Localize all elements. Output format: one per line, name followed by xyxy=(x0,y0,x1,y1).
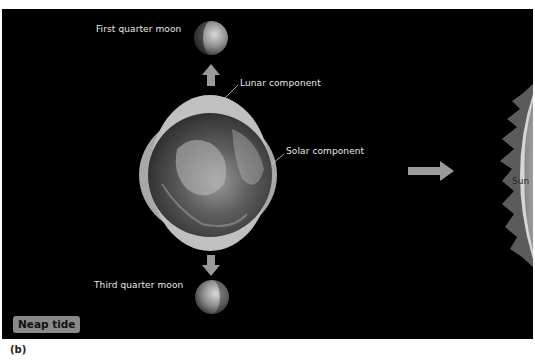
panel-label: (b) xyxy=(10,344,26,355)
arrow-right-icon xyxy=(408,161,454,181)
arrow-down-icon xyxy=(202,255,220,276)
solar-component-label: Solar component xyxy=(286,146,364,156)
diagram-panel: First quarter moon Lunar component Solar… xyxy=(2,9,533,339)
third-quarter-moon-label: Third quarter moon xyxy=(94,280,183,290)
arrow-up-icon xyxy=(202,64,220,86)
lunar-component-label: Lunar component xyxy=(240,78,321,88)
tide-type-badge: Neap tide xyxy=(13,316,80,333)
first-quarter-moon-label: First quarter moon xyxy=(96,24,181,34)
lunar-leader-line xyxy=(224,85,238,99)
earth xyxy=(148,113,272,237)
sun-label: Sun xyxy=(512,176,529,186)
third-quarter-moon xyxy=(195,280,229,314)
first-quarter-moon xyxy=(194,21,228,55)
diagram-graphics xyxy=(2,9,533,339)
